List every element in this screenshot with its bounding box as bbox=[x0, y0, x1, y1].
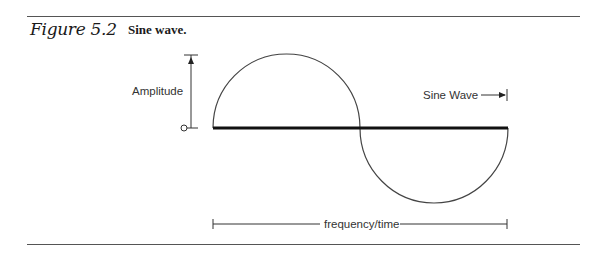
sine-lower-arc bbox=[360, 128, 508, 203]
frequency-time-label: frequency/time bbox=[324, 218, 399, 230]
sine-wave-label: Sine Wave bbox=[423, 89, 478, 101]
bottom-rule bbox=[27, 244, 580, 245]
sine-wave-arrow bbox=[481, 89, 507, 101]
figure: Figure 5.2 Sine wave. Amplitude Sine Wav… bbox=[0, 0, 604, 254]
sine-upper-arc bbox=[213, 54, 360, 128]
arrowhead-up-icon bbox=[188, 57, 194, 64]
sine-wave-diagram: Amplitude Sine Wave frequency/time bbox=[0, 0, 604, 254]
arrowhead-right-icon bbox=[499, 92, 506, 98]
amplitude-label: Amplitude bbox=[132, 85, 183, 97]
origin-circle-icon bbox=[181, 125, 187, 131]
amplitude-arrow bbox=[181, 55, 198, 131]
